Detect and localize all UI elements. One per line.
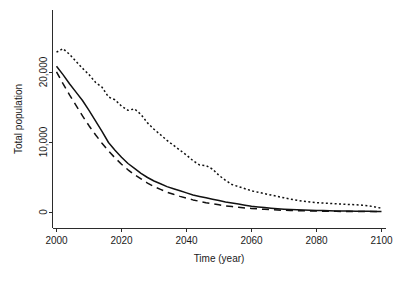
series-lower-bound-dashed — [57, 72, 382, 212]
y-axis-title: Total population — [13, 84, 24, 154]
population-projection-chart: 0 10,000 20,000 2000 2020 2040 2060 2080… — [0, 0, 408, 281]
y-tick-label-10000: 10,000 — [38, 126, 49, 157]
series-upper-bound-dotted — [57, 49, 382, 209]
series-median-solid — [57, 66, 382, 211]
y-tick-label-0: 0 — [38, 209, 49, 215]
x-tick-label-2020: 2020 — [110, 235, 133, 246]
x-tick-label-2040: 2040 — [175, 235, 198, 246]
y-axis-ticks — [49, 73, 53, 213]
y-tick-labels: 0 10,000 20,000 — [38, 56, 49, 215]
x-tick-labels: 2000 2020 2040 2060 2080 2100 — [45, 235, 393, 246]
x-tick-label-2100: 2100 — [370, 235, 393, 246]
plot-axes — [53, 10, 387, 229]
x-tick-label-2000: 2000 — [45, 235, 68, 246]
x-tick-label-2080: 2080 — [305, 235, 328, 246]
x-axis-title: Time (year) — [194, 253, 245, 264]
series-paths — [57, 49, 382, 212]
chart-figure: 0 10,000 20,000 2000 2020 2040 2060 2080… — [0, 0, 408, 281]
y-tick-label-20000: 20,000 — [38, 56, 49, 87]
x-axis-ticks — [57, 229, 382, 233]
x-tick-label-2060: 2060 — [240, 235, 263, 246]
